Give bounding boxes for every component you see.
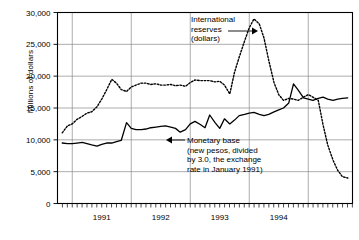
y-tick-label: 5,000 <box>30 168 51 177</box>
monetary-base-annotation: Monetary base(new pesos, dividedby 3.0, … <box>187 136 263 174</box>
annotation-line: International <box>191 15 235 24</box>
y-tick-label: 15,000 <box>26 104 51 113</box>
y-tick-label: 25,000 <box>26 40 51 49</box>
annotations: Internationalreserves(dollars)Monetary b… <box>166 15 263 174</box>
chart-figure: Millions of dollars 05,00010,00015,00020… <box>0 0 359 240</box>
x-tick-label: 1991 <box>93 213 111 222</box>
y-tick-label: 0 <box>46 200 51 209</box>
y-tick-label: 20,000 <box>26 72 51 81</box>
x-tick-label: 1993 <box>211 213 229 222</box>
line-chart: 05,00010,00015,00020,00025,00030,000 199… <box>0 0 359 240</box>
annotation-line: (dollars) <box>191 34 220 43</box>
x-tick-label: 1992 <box>152 213 170 222</box>
y-axis-ticks: 05,00010,00015,00020,00025,00030,000 <box>26 9 57 209</box>
x-tick-label: 1994 <box>270 213 288 222</box>
x-axis-ticks: 1991199219931994 <box>62 204 352 222</box>
y-tick-label: 10,000 <box>26 136 51 145</box>
annotation-line: rate in January 1991) <box>187 165 263 174</box>
annotation-line: Monetary base <box>187 136 240 145</box>
annotation-line: (new pesos, divided <box>187 146 258 155</box>
annotation-line: reserves <box>191 25 222 34</box>
y-tick-label: 30,000 <box>26 9 51 18</box>
reserves-annotation: Internationalreserves(dollars) <box>191 15 235 43</box>
annotation-line: by 3.0, the exchange <box>187 155 262 164</box>
